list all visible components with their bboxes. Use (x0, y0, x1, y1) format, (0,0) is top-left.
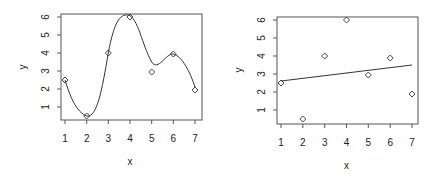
x-tick-label: 2 (84, 133, 90, 144)
x-tick-label: 4 (344, 137, 350, 148)
right-y-axis: 1 2 3 4 5 6 y (233, 17, 277, 113)
right-plot-frame (277, 17, 418, 124)
data-point-marker (344, 17, 350, 23)
x-axis-label: x (128, 156, 133, 167)
left-plot-frame (61, 14, 202, 120)
y-tick-label: 1 (40, 104, 51, 110)
y-tick-label: 4 (256, 53, 267, 59)
left-plot: 1 2 3 4 5 6 7 x 1 2 3 4 5 6 y (17, 14, 202, 167)
regression-line (281, 65, 412, 81)
x-tick-label: 7 (192, 133, 198, 144)
y-tick-label: 6 (256, 17, 267, 23)
x-tick-label: 5 (149, 133, 155, 144)
y-tick-label: 3 (40, 68, 51, 74)
y-tick-label: 4 (40, 50, 51, 56)
chart-canvas: 1 2 3 4 5 6 7 x 1 2 3 4 5 6 y (0, 0, 438, 176)
data-point-marker (365, 72, 371, 78)
y-tick-label: 2 (40, 86, 51, 92)
x-tick-label: 3 (106, 133, 112, 144)
y-tick-label: 6 (40, 14, 51, 20)
y-tick-label: 2 (256, 89, 267, 95)
x-tick-label: 4 (127, 133, 133, 144)
data-point-marker (192, 87, 198, 93)
right-points (278, 17, 415, 122)
y-axis-label: y (17, 65, 28, 70)
x-tick-label: 2 (300, 137, 306, 148)
x-tick-label: 3 (322, 137, 328, 148)
left-y-axis: 1 2 3 4 5 6 y (17, 14, 61, 110)
y-axis-label: y (233, 68, 244, 73)
data-point-marker (300, 116, 306, 122)
y-tick-label: 5 (40, 32, 51, 38)
y-tick-label: 1 (256, 107, 267, 113)
data-point-marker (387, 55, 393, 61)
x-axis-label: x (344, 160, 349, 171)
y-tick-label: 5 (256, 35, 267, 41)
x-tick-label: 1 (278, 137, 284, 148)
x-tick-label: 7 (409, 137, 415, 148)
right-plot: 1 2 3 4 5 6 7 x 1 2 3 4 5 6 y (233, 17, 418, 171)
y-tick-label: 3 (256, 71, 267, 77)
x-tick-label: 5 (366, 137, 372, 148)
x-tick-label: 1 (62, 133, 68, 144)
x-tick-label: 6 (387, 137, 393, 148)
x-tick-label: 6 (171, 133, 177, 144)
left-points (62, 14, 198, 119)
spline-curve (65, 15, 195, 116)
left-x-axis: 1 2 3 4 5 6 7 x (62, 120, 198, 167)
data-point-marker (322, 53, 328, 59)
right-x-axis: 1 2 3 4 5 6 7 x (278, 124, 415, 171)
data-point-marker (409, 91, 415, 97)
data-point-marker (149, 69, 155, 75)
